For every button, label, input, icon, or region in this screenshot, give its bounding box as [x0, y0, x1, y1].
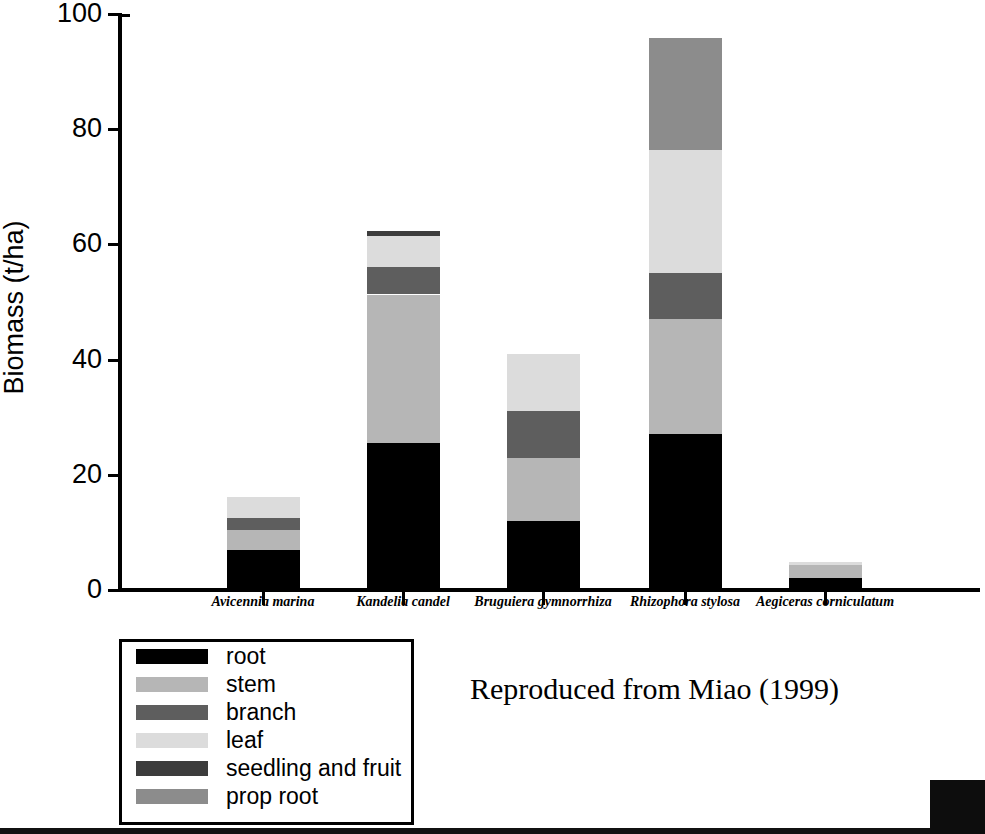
legend-item-seedling-and-fruit: seedling and fruit: [122, 754, 411, 782]
bar-segment-root: [649, 434, 722, 590]
x-axis-label-4: Aegiceras corniculatum: [705, 594, 945, 610]
legend-swatch-stem-icon: [136, 677, 208, 692]
y-tick-40: [108, 359, 122, 362]
bar-segment-branch: [227, 518, 300, 530]
y-tick-label-60: 60: [8, 230, 102, 257]
legend-label: root: [226, 645, 266, 668]
legend-swatch-root-icon: [136, 649, 208, 664]
legend-label: leaf: [226, 729, 263, 752]
bar-segment-prop-root: [649, 38, 722, 150]
bar-segment-stem: [367, 295, 440, 444]
bar-rhizophora-stylosa: [649, 38, 722, 590]
legend-label: prop root: [226, 785, 318, 808]
bar-segment-stem: [789, 565, 862, 578]
legend-label: seedling and fruit: [226, 757, 401, 780]
legend-item-branch: branch: [122, 698, 411, 726]
legend-box: rootstembranchleafseedling and fruitprop…: [119, 639, 414, 825]
y-axis-line: [118, 14, 122, 591]
y-tick-label-20: 20: [8, 461, 102, 488]
bar-segment-stem: [507, 458, 580, 521]
bar-segment-branch: [649, 273, 722, 319]
bar-avicennia-marina: [227, 497, 300, 590]
y-tick-label-100: 100: [8, 0, 102, 27]
y-tick-60: [108, 243, 122, 246]
legend-swatch-branch-icon: [136, 705, 208, 720]
legend-swatch-leaf-icon: [136, 733, 208, 748]
y-tick-label-80: 80: [8, 115, 102, 142]
bar-segment-seedling-and-fruit: [367, 231, 440, 236]
biomass-stacked-bar-figure: Biomass (t/ha) 020406080100 Avicennia ma…: [0, 0, 985, 834]
bar-segment-leaf: [367, 236, 440, 268]
bar-segment-branch: [507, 411, 580, 457]
legend-item-prop-root: prop root: [122, 782, 411, 810]
y-tick-0: [108, 589, 122, 592]
y-tick-100: [108, 13, 122, 16]
legend-swatch-seedling-and-fruit-icon: [136, 761, 208, 776]
y-tick-label-0: 0: [8, 576, 102, 603]
y-tick-80: [108, 128, 122, 131]
bar-segment-root: [789, 578, 862, 590]
bar-segment-root: [507, 521, 580, 590]
bar-bruguiera-gymnorrhiza: [507, 354, 580, 590]
legend-item-leaf: leaf: [122, 726, 411, 754]
plot-area: Biomass (t/ha) 020406080100 Avicennia ma…: [0, 0, 985, 620]
y-tick-label-40: 40: [8, 346, 102, 373]
bar-segment-root: [367, 443, 440, 590]
legend-label: stem: [226, 673, 276, 696]
bar-segment-leaf: [789, 562, 862, 565]
bar-segment-leaf: [227, 497, 300, 518]
bar-aegiceras-corniculatum: [789, 562, 862, 590]
legend-item-root: root: [122, 642, 411, 670]
bar-segment-leaf: [649, 150, 722, 273]
legend-label: branch: [226, 701, 296, 724]
bar-segment-root: [227, 550, 300, 590]
page-edge-artifact: [0, 828, 985, 834]
bar-segment-branch: [367, 267, 440, 294]
bar-segment-leaf: [507, 354, 580, 412]
y-tick-20: [108, 474, 122, 477]
legend-swatch-prop-root-icon: [136, 789, 208, 804]
source-credit: Reproduced from Miao (1999): [470, 672, 839, 706]
page-corner-artifact: [930, 780, 985, 834]
legend-item-stem: stem: [122, 670, 411, 698]
bar-kandelia-candel: [367, 231, 440, 590]
bar-segment-stem: [649, 319, 722, 434]
bar-segment-stem: [227, 530, 300, 550]
